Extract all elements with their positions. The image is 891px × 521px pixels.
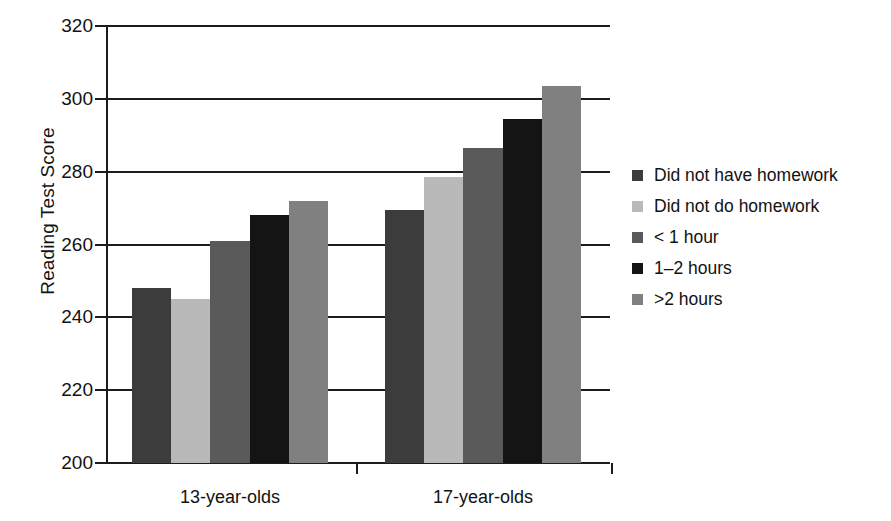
y-tick-label: 320 xyxy=(61,15,93,37)
bar-fill xyxy=(542,86,581,463)
y-tick-mark xyxy=(95,316,106,318)
y-tick-mark xyxy=(95,389,106,391)
legend-swatch-icon xyxy=(632,294,643,305)
legend-swatch-icon xyxy=(632,263,643,274)
bar-group-1 xyxy=(132,26,328,463)
y-tick-label: 220 xyxy=(61,379,93,401)
y-tick-label: 200 xyxy=(61,452,93,474)
plot-area: 32030028026024022020013-year-olds17-year… xyxy=(106,26,610,463)
bar-fill xyxy=(289,201,328,463)
y-axis-title: Reading Test Score xyxy=(37,81,59,341)
bar-fill xyxy=(424,177,463,463)
legend-item[interactable]: >2 hours xyxy=(632,284,882,315)
y-tick-label: 260 xyxy=(61,234,93,256)
legend-item[interactable]: Did not have homework xyxy=(632,160,882,191)
bar-fill xyxy=(132,288,171,463)
bar-group-2 xyxy=(385,26,581,463)
y-tick-mark xyxy=(95,244,106,246)
legend-swatch-icon xyxy=(632,170,643,181)
legend-swatch-icon xyxy=(632,232,643,243)
bar-fill xyxy=(463,148,502,463)
legend-item[interactable]: < 1 hour xyxy=(632,222,882,253)
x-axis-label: 13-year-olds xyxy=(180,487,280,508)
bar-fill xyxy=(171,299,210,463)
legend-label: 1–2 hours xyxy=(654,260,732,278)
x-tick-mark xyxy=(611,463,613,474)
bar-fill xyxy=(210,241,249,463)
y-tick-mark xyxy=(95,25,106,27)
legend-label: < 1 hour xyxy=(654,229,719,247)
chart-legend: Did not have homeworkDid not do homework… xyxy=(632,160,882,315)
legend-item[interactable]: Did not do homework xyxy=(632,191,882,222)
legend-item[interactable]: 1–2 hours xyxy=(632,253,882,284)
legend-label: Did not have homework xyxy=(654,167,838,185)
y-tick-mark xyxy=(95,171,106,173)
y-tick-label: 240 xyxy=(61,306,93,328)
bar-fill xyxy=(503,119,542,463)
bar-chart-figure: Reading Test Score 320300280260240220200… xyxy=(0,0,891,521)
y-tick-mark xyxy=(95,462,106,464)
y-tick-label: 280 xyxy=(61,161,93,183)
legend-label: Did not do homework xyxy=(654,198,819,216)
x-tick-mark xyxy=(356,463,358,474)
legend-swatch-icon xyxy=(632,201,643,212)
y-tick-label: 300 xyxy=(61,88,93,110)
bar-fill xyxy=(250,215,289,463)
bar-fill xyxy=(385,210,424,463)
y-tick-mark xyxy=(95,98,106,100)
x-axis-label: 17-year-olds xyxy=(433,487,533,508)
legend-label: >2 hours xyxy=(654,291,723,309)
